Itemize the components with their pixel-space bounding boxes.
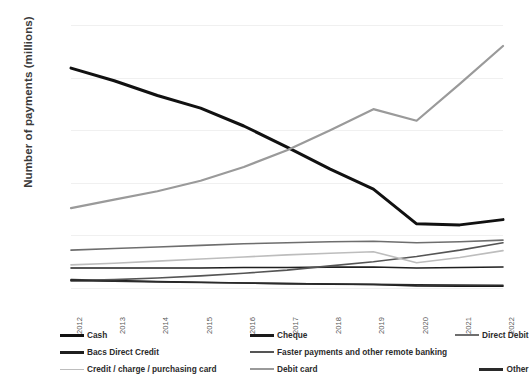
legend-swatch-icon: [60, 334, 84, 337]
gridline: [71, 288, 503, 289]
series-lines: [71, 25, 503, 288]
legend-item[interactable]: Direct Debit: [455, 331, 529, 339]
legend-item[interactable]: Cash: [60, 331, 250, 339]
legend-swatch-icon: [250, 368, 274, 370]
chart-legend: CashChequeDirect DebitBacs Direct Credit…: [60, 327, 506, 378]
series-line: [71, 281, 503, 286]
legend-item-label: Faster payments and other remote banking: [277, 348, 447, 356]
legend-item[interactable]: Debit card: [250, 365, 455, 373]
legend-item-label: Cash: [87, 331, 107, 339]
y-axis-title: Number of payments (millions): [22, 2, 34, 202]
legend-item-label: Cheque: [277, 331, 307, 339]
legend-item[interactable]: Bacs Direct Credit: [60, 348, 250, 356]
legend-item[interactable]: Other: [455, 365, 529, 373]
legend-item[interactable]: Faster payments and other remote banking: [250, 348, 455, 356]
legend-item-label: Debit card: [277, 365, 318, 373]
legend-swatch-icon: [250, 334, 274, 337]
series-line: [71, 267, 503, 268]
legend-item[interactable]: Credit / charge / purchasing card: [60, 365, 250, 373]
legend-swatch-icon: [250, 351, 274, 353]
legend-item-label: Credit / charge / purchasing card: [87, 365, 217, 373]
legend-swatch-icon: [60, 369, 84, 371]
series-line: [71, 46, 503, 208]
series-line: [71, 68, 503, 225]
plot-area: 25,00020,00015,00010,0005,0000 201220132…: [71, 25, 503, 288]
legend-item[interactable]: Cheque: [250, 331, 455, 339]
legend-swatch-icon: [479, 368, 503, 371]
legend-swatch-icon: [60, 351, 84, 354]
series-line: [71, 240, 503, 250]
legend-item-label: Direct Debit: [482, 331, 529, 339]
legend-item-label: Other: [506, 365, 528, 373]
legend-item-label: Bacs Direct Credit: [87, 348, 159, 356]
legend-swatch-icon: [455, 334, 479, 336]
